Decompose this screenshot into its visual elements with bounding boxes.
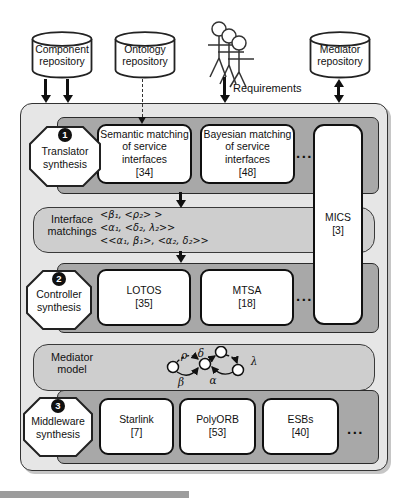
requirements-people-icon — [206, 20, 260, 88]
tool-citation: [53] — [209, 426, 226, 439]
tool-mics: MICS [3] — [313, 124, 363, 325]
stage-number-badge: 1 — [58, 128, 72, 142]
stage-number-badge: 3 — [51, 399, 65, 413]
ontology-dashed-arrowhead — [138, 117, 146, 124]
mediator-bidirectional-arrow — [333, 79, 344, 103]
transition-label-delta: δ — [198, 347, 204, 359]
component-to-pipeline-arrow — [40, 79, 51, 103]
mediator-repository: Mediator repository — [309, 31, 371, 79]
stage1-to-matchings-arrow — [175, 192, 186, 208]
tool-name: LOTOS — [126, 285, 161, 298]
stage-label: Translator synthesis — [29, 145, 101, 170]
ontology-dashed-link — [142, 79, 143, 117]
ontology-repository: Ontology repository — [114, 31, 176, 79]
tool-citation: [7] — [131, 426, 143, 439]
tool-citation: [35] — [135, 297, 152, 310]
transition-label-rho: ρ — [180, 349, 188, 361]
component-repository-label: Component repository — [25, 44, 99, 68]
more-tools-ellipsis: ... — [296, 144, 313, 161]
requirements-label: Requirements — [233, 82, 301, 94]
component-repository: Component repository — [31, 31, 93, 79]
requirements-arrow — [219, 77, 230, 103]
tool-name: MICS — [325, 212, 351, 225]
stage-translator-synthesis: 1 Translator synthesis — [29, 126, 101, 187]
more-tools-ellipsis: ... — [347, 420, 364, 437]
transition-label-alpha: α — [209, 374, 216, 386]
tool-citation: [40] — [292, 426, 309, 439]
scan-artifact-bar — [0, 491, 189, 498]
interface-matchings-expressions: <β₁, <ρ₂> > <α₁, <δ₂, λ₂>> <<α₁, β₁>, <α… — [100, 208, 209, 247]
stage-number-badge: 2 — [52, 272, 66, 286]
tool-polyorb: PolyORB [53] — [179, 398, 256, 455]
synthesis-pipeline-diagram: Component repository Ontology repository… — [0, 0, 401, 498]
matching-expression: <β₁, <ρ₂> > — [100, 208, 209, 221]
tool-citation: [34] — [136, 166, 153, 179]
more-tools-ellipsis: ... — [296, 287, 313, 304]
tool-starlink: Starlink [7] — [99, 398, 174, 455]
interface-matchings-label: Interface matchings — [36, 213, 108, 238]
tool-lotos: LOTOS [35] — [97, 269, 191, 326]
tool-name: ESBs — [288, 414, 314, 427]
tool-name: Semantic matching of service interfaces — [100, 129, 188, 167]
mediator-model-label: Mediator model — [36, 351, 108, 376]
stage-label: Controller synthesis — [26, 288, 92, 313]
tool-citation: [3] — [332, 224, 344, 237]
matching-expression: <<α₁, β₁>, <α₂, δ₂>> — [100, 234, 209, 247]
component-to-pipeline-arrow — [62, 79, 73, 103]
transition-label-lambda: λ — [250, 355, 258, 367]
ontology-repository-label: Ontology repository — [108, 44, 182, 68]
tool-name: Bayesian matching of service interfaces — [204, 129, 292, 167]
mediator-repository-label: Mediator repository — [303, 44, 377, 68]
transition-label-beta: β — [177, 376, 184, 388]
tool-citation: [18] — [238, 297, 255, 310]
matchings-to-stage2-arrow — [175, 251, 186, 263]
tool-name: Starlink — [119, 414, 154, 427]
tool-bayesian-matching: Bayesian matching of service interfaces … — [200, 124, 295, 184]
tool-citation: [48] — [239, 166, 256, 179]
tool-semantic-matching: Semantic matching of service interfaces … — [97, 124, 192, 184]
tool-name: MTSA — [233, 285, 262, 298]
tool-esbs: ESBs [40] — [262, 398, 339, 455]
mediator-model-state-machine: ρ δ λ β α — [160, 346, 264, 388]
tool-mtsa: MTSA [18] — [200, 269, 294, 326]
stage-label: Middleware synthesis — [23, 415, 93, 440]
matching-expression: <α₁, <δ₂, λ₂>> — [100, 221, 209, 234]
stage-middleware-synthesis: 3 Middleware synthesis — [23, 397, 93, 457]
stage-controller-synthesis: 2 Controller synthesis — [26, 270, 92, 330]
tool-name: PolyORB — [196, 414, 239, 427]
